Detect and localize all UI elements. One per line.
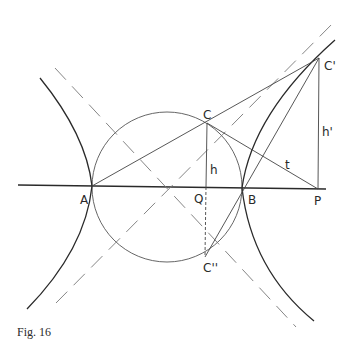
label-C-double-prime: C'' <box>203 261 218 275</box>
label-A: A <box>80 193 89 207</box>
label-h: h <box>210 163 218 177</box>
geometry-canvas: A Q B P C C' C'' h h' t Fig. 16 <box>0 0 353 353</box>
label-P: P <box>314 194 321 208</box>
figure-caption: Fig. 16 <box>17 325 51 339</box>
label-B: B <box>248 193 256 207</box>
label-Q: Q <box>194 192 203 206</box>
figure-16-diagram: A Q B P C C' C'' h h' t Fig. 16 <box>0 0 353 353</box>
segment-h <box>206 123 207 187</box>
label-h-prime: h' <box>322 125 333 139</box>
line-C-double-prime-to-C-prime <box>205 58 319 257</box>
label-C-prime: C' <box>324 59 336 73</box>
segment-Q-to-C-double-prime <box>205 187 206 257</box>
segment-h-prime <box>318 58 319 189</box>
asymptote-rising <box>56 20 336 303</box>
asymptote-falling <box>55 68 296 327</box>
label-C: C <box>203 108 211 122</box>
hyperbola-right-branch <box>242 40 335 321</box>
label-t: t <box>285 158 290 172</box>
